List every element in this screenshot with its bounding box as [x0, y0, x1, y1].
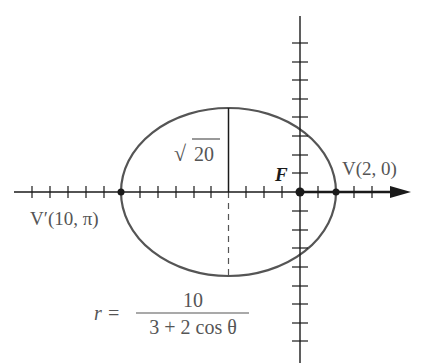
polar-equation: r = 10 3 + 2 cos θ	[94, 289, 249, 338]
vertex-prime-label: V′(10, π)	[30, 208, 99, 230]
minor-semi-axis-label: √ 20	[174, 139, 220, 166]
equation-numerator: 10	[183, 289, 203, 311]
vertex-point	[333, 189, 340, 196]
equation-denominator: 3 + 2 cos θ	[149, 316, 237, 338]
polar-ellipse-diagram: F V(2, 0) V′(10, π) √ 20 r = 10 3 + 2 co…	[0, 0, 423, 363]
focus-label: F	[274, 164, 288, 185]
vertex-prime-point	[118, 189, 125, 196]
focus-point	[296, 188, 305, 197]
vertex-label: V(2, 0)	[342, 158, 397, 180]
polar-axis-arrowhead-icon	[390, 186, 411, 198]
diagram-svg: F V(2, 0) V′(10, π) √ 20 r = 10 3 + 2 co…	[0, 0, 423, 363]
sqrt-radicand: 20	[194, 143, 214, 165]
equation-lhs: r =	[94, 302, 120, 324]
sqrt-symbol: √	[174, 141, 187, 166]
